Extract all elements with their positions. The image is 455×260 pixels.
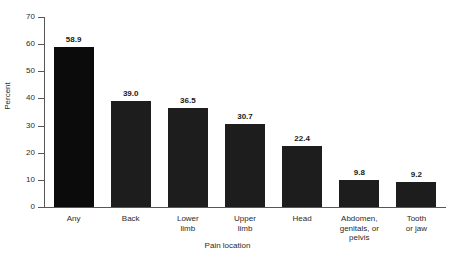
y-axis-tick [38, 71, 44, 72]
bar-value-label: 30.7 [215, 113, 275, 121]
y-axis-tick-label: 20 [8, 149, 35, 157]
bar [396, 182, 436, 207]
bar [54, 47, 94, 207]
y-axis-tick [38, 98, 44, 99]
bar-value-label: 58.9 [44, 36, 104, 44]
bar-chart: 010203040506070 Percent 58.9Any39.0Back3… [0, 0, 455, 260]
y-axis-tick-label: 70 [8, 13, 35, 21]
y-axis-tick-label: 40 [8, 94, 35, 102]
x-axis-category-label: Toothor jaw [384, 214, 448, 233]
y-axis-title: Percent [4, 72, 12, 120]
y-axis-tick-label: 30 [8, 122, 35, 130]
x-axis-category-label: Abdomen,genitals, orpelvis [327, 214, 391, 243]
y-axis-tick-label: 0 [8, 203, 35, 211]
x-axis-category-label: Any [42, 214, 106, 224]
y-axis-tick-label: 60 [8, 40, 35, 48]
bar [339, 180, 379, 207]
y-axis-tick [38, 180, 44, 181]
x-axis-category-label: Back [99, 214, 163, 224]
y-axis-tick [38, 44, 44, 45]
x-axis-title: Pain location [0, 242, 455, 250]
bar-value-label: 9.8 [329, 169, 389, 177]
y-axis-tick-label: 10 [8, 176, 35, 184]
bar-value-label: 9.2 [386, 171, 446, 179]
bar [111, 101, 151, 207]
y-axis-tick-label: 50 [8, 67, 35, 75]
y-axis-tick [38, 153, 44, 154]
x-axis-category-label: Lowerlimb [156, 214, 220, 233]
bar [168, 108, 208, 207]
x-axis-category-label: Head [270, 214, 334, 224]
y-axis-line [44, 17, 45, 208]
bar-value-label: 22.4 [272, 135, 332, 143]
bar-value-label: 39.0 [101, 90, 161, 98]
bar [282, 146, 322, 207]
x-axis-line [44, 207, 446, 208]
bar [225, 124, 265, 207]
y-axis-tick [38, 17, 44, 18]
x-axis-category-label: Upperlimb [213, 214, 277, 233]
y-axis-tick [38, 126, 44, 127]
bar-value-label: 36.5 [158, 97, 218, 105]
y-axis-tick [38, 207, 44, 208]
